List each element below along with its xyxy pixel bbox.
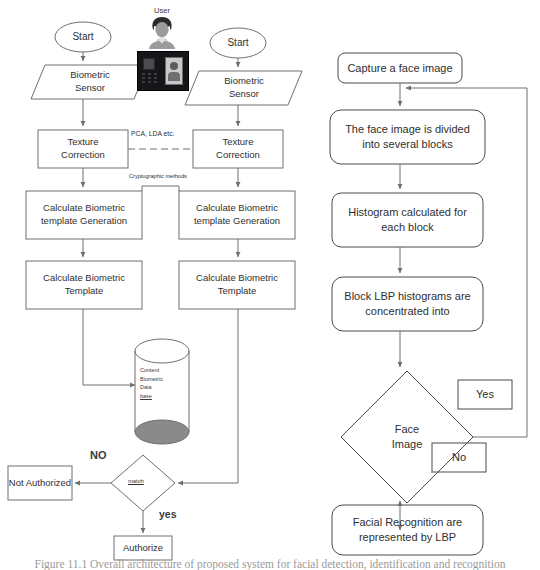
shape-not-authorized (8, 466, 72, 500)
label-pca-lda: PCA, LDA etc. (131, 130, 174, 137)
shape-template-generation-left (26, 191, 142, 239)
db-line-4: base (140, 392, 194, 401)
device-keys-icon (142, 73, 158, 85)
shape-block-lbp-concentrated (332, 277, 483, 331)
shape-sensor-right (185, 71, 302, 105)
user-avatar-icon (145, 15, 179, 49)
device-keypad-icon (143, 58, 155, 70)
shape-capture-face-image (338, 53, 462, 83)
label-match-decision: match (128, 478, 144, 484)
shape-texture-correction-right (193, 130, 283, 168)
label-match-no: NO (90, 449, 107, 461)
db-line-1: Content (140, 366, 194, 375)
label-database-content: Content Biometric Data base (140, 366, 194, 400)
shape-yes-box (458, 380, 512, 409)
shape-start-right (210, 28, 266, 58)
shape-sensor-left (31, 65, 148, 99)
shape-start-left (55, 22, 111, 52)
edge-cryptographic-methods (142, 186, 179, 191)
edge-yes-feedback-loop (406, 88, 527, 437)
shape-facial-recognition-lbp (332, 505, 483, 555)
label-match-yes: yes (159, 508, 177, 520)
shape-template-generation-right (179, 191, 295, 239)
figure-canvas: Start Biometric Sensor Texture Correctio… (0, 0, 540, 570)
label-user: User (134, 6, 190, 15)
shape-face-image-decision (341, 371, 473, 503)
figure-caption: Figure 11.1 Overall architecture of prop… (0, 558, 540, 570)
shape-template-left (26, 261, 142, 309)
db-line-2: Biometric (140, 375, 194, 384)
user-illustration-group: User (134, 6, 190, 92)
shape-template-right (179, 261, 295, 309)
flowchart-vector-layer (0, 0, 540, 570)
shape-histogram-per-block (332, 193, 483, 247)
shape-divide-into-blocks (330, 110, 485, 164)
edge-template-left-to-database (83, 309, 135, 385)
device-screen-face-preview (165, 57, 183, 85)
shape-texture-correction-left (38, 130, 128, 168)
db-line-3: Data (140, 383, 194, 392)
biometric-scanner-device-icon (137, 51, 189, 91)
shape-authorize (114, 536, 172, 560)
label-cryptographic-methods: Cryptographic methods (129, 173, 187, 179)
shape-no-box (432, 443, 486, 472)
